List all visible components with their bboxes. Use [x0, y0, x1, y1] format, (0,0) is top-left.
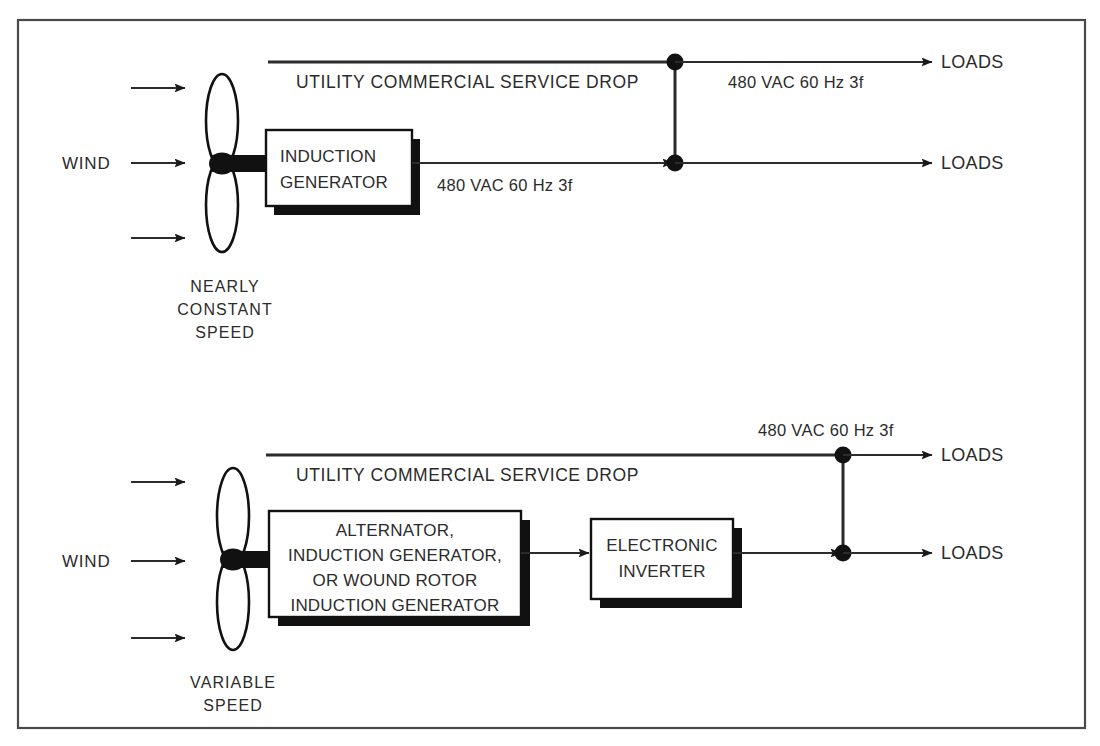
bottom-turbine-caption-line2: SPEED — [203, 697, 263, 714]
wind-label-top: WIND — [62, 154, 111, 173]
turbine-hub — [209, 153, 235, 175]
electronic-inverter-box[interactable] — [591, 519, 733, 599]
top-loads-label-upper: LOADS — [941, 52, 1004, 72]
top-loads-label-lower: LOADS — [941, 153, 1004, 173]
bottom-utility-output-label: 480 VAC 60 Hz 3f — [758, 421, 894, 439]
top-turbine-caption-line2: CONSTANT — [177, 301, 273, 318]
electronic-inverter-label-line2: INVERTER — [618, 562, 705, 581]
diagram-border — [18, 20, 1085, 728]
variable-generator-label-line3: OR WOUND ROTOR — [313, 571, 478, 590]
top-utility-line-label: UTILITY COMMERCIAL SERVICE DROP — [296, 72, 639, 92]
top-generator-output-label: 480 VAC 60 Hz 3f — [437, 176, 573, 194]
bottom-wind-arrows — [131, 482, 185, 638]
induction-generator-box[interactable] — [266, 130, 412, 206]
turbine-hub-2 — [220, 549, 246, 571]
electronic-inverter-label-line1: ELECTRONIC — [606, 536, 718, 555]
top-wind-arrows — [131, 88, 185, 238]
diagram-canvas: WIND NEARLY CONSTANT SPEED INDUCTION GEN… — [0, 0, 1100, 746]
induction-generator-label-line1: INDUCTION — [280, 147, 376, 166]
variable-generator-label-line1: ALTERNATOR, — [336, 521, 454, 540]
bottom-loads-label-upper: LOADS — [941, 445, 1004, 465]
wind-label-bottom: WIND — [62, 552, 111, 571]
induction-generator-label-line2: GENERATOR — [280, 173, 388, 192]
bottom-utility-line-label: UTILITY COMMERCIAL SERVICE DROP — [296, 465, 639, 485]
variable-generator-label-line4: INDUCTION GENERATOR — [290, 596, 499, 615]
top-turbine — [206, 74, 270, 252]
top-turbine-caption-line1: NEARLY — [190, 278, 259, 295]
top-turbine-caption-line3: SPEED — [195, 324, 255, 341]
top-utility-output-label: 480 VAC 60 Hz 3f — [728, 73, 864, 91]
bottom-system-group: WIND VARIABLE SPEED ALTERNATOR, INDUCTIO… — [62, 421, 1004, 714]
bottom-turbine-caption-line1: VARIABLE — [190, 674, 276, 691]
top-system-group: WIND NEARLY CONSTANT SPEED INDUCTION GEN… — [62, 52, 1004, 341]
bottom-loads-label-lower: LOADS — [941, 543, 1004, 563]
variable-generator-label-line2: INDUCTION GENERATOR, — [288, 546, 502, 565]
